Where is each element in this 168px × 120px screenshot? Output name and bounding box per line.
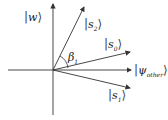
label-s1: |s1⟩ <box>108 89 126 103</box>
label-s2: |s2⟩ <box>84 18 102 32</box>
vector-s1 <box>53 70 130 88</box>
label-beta1: β1 <box>68 52 78 65</box>
angle-arc <box>60 56 68 68</box>
label-psi-other: |ψother⟩ <box>134 64 168 78</box>
label-s0: |s0⟩ <box>104 38 122 52</box>
vector-s0 <box>53 52 130 70</box>
label-w: |w⟩ <box>24 11 42 23</box>
